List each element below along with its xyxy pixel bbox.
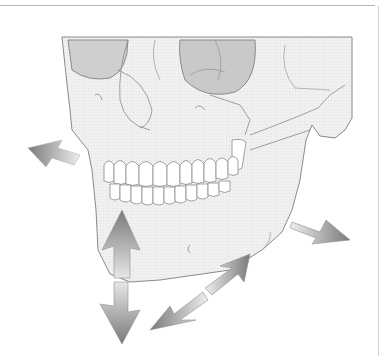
arrow-vertical-down-icon: [100, 282, 140, 344]
skull-illustration: [0, 0, 390, 364]
figure-canvas: [0, 0, 390, 364]
arrow-forward-left-icon: [28, 140, 80, 167]
arrow-backward-right-icon: [290, 220, 350, 244]
